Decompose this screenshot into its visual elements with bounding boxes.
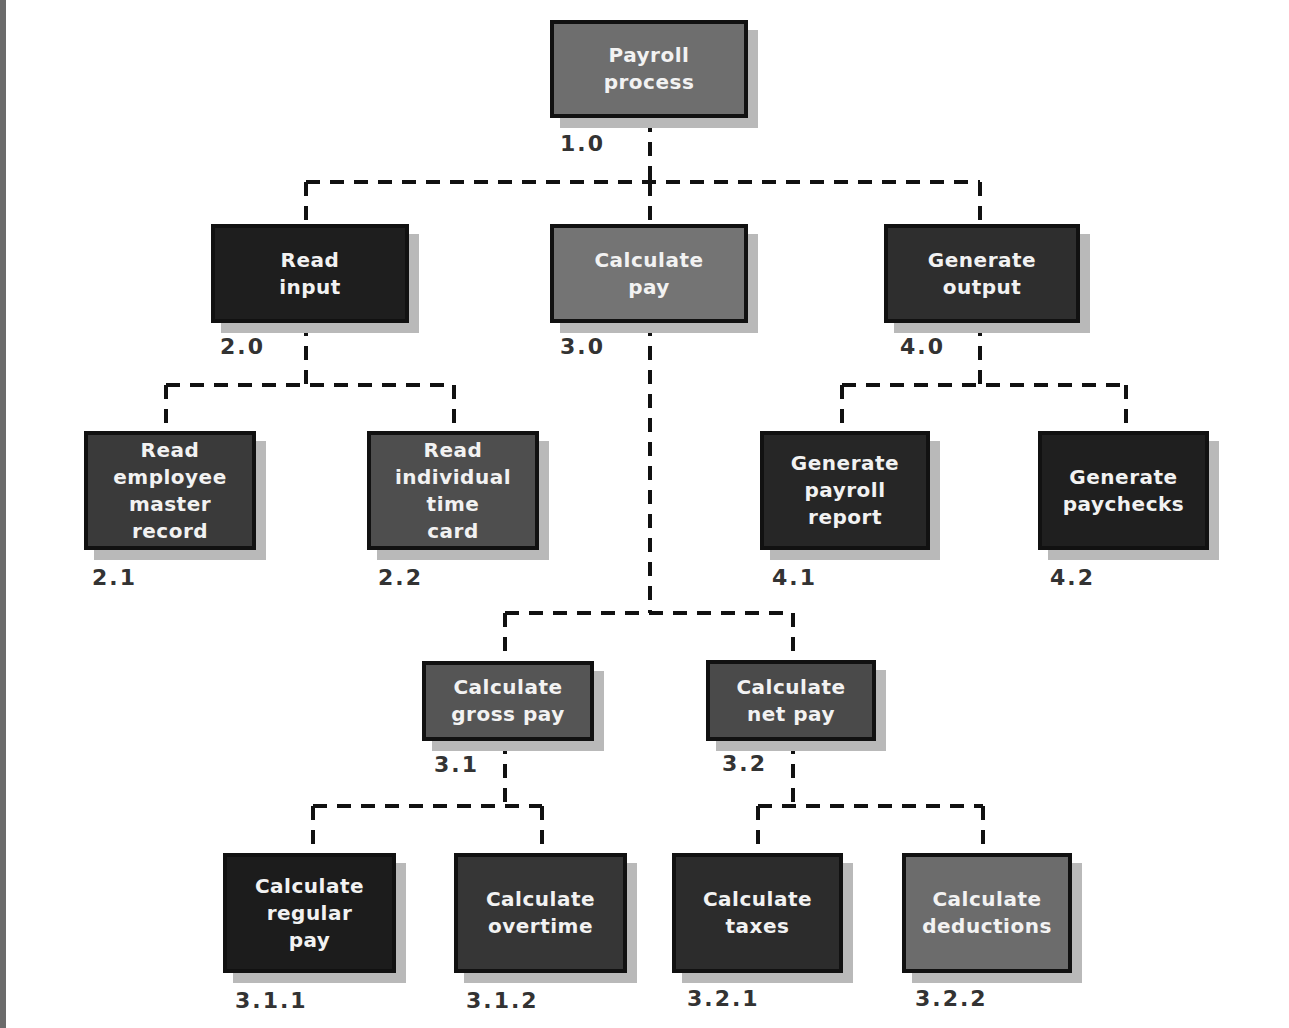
- node-calculate-taxes: Calculate taxes: [672, 853, 843, 973]
- node-number-3-2: 3.2: [722, 751, 767, 776]
- node-payroll-process: Payroll process: [550, 20, 748, 118]
- node-read-employee-master-record: Read employee master record: [84, 431, 256, 550]
- node-generate-paychecks: Generate paychecks: [1038, 431, 1209, 550]
- node-number-3-2-2: 3.2.2: [915, 986, 988, 1011]
- node-read-input: Read input: [211, 224, 409, 323]
- node-number-3-1: 3.1: [434, 752, 479, 777]
- node-number-2-2: 2.2: [378, 565, 423, 590]
- node-generate-payroll-report: Generate payroll report: [760, 431, 930, 550]
- node-calculate-deductions: Calculate deductions: [902, 853, 1072, 973]
- node-calculate-overtime: Calculate overtime: [454, 853, 627, 973]
- node-number-4-0: 4.0: [900, 334, 945, 359]
- node-number-3-1-2: 3.1.2: [466, 988, 539, 1013]
- node-generate-output: Generate output: [884, 224, 1080, 323]
- node-calculate-regular-pay: Calculate regular pay: [223, 853, 396, 973]
- node-read-individual-time-card: Read individual time card: [367, 431, 539, 550]
- node-number-3-1-1: 3.1.1: [235, 988, 308, 1013]
- node-number-4-1: 4.1: [772, 565, 817, 590]
- node-number-4-2: 4.2: [1050, 565, 1095, 590]
- node-number-3-2-1: 3.2.1: [687, 986, 760, 1011]
- node-calculate-net-pay: Calculate net pay: [706, 660, 876, 741]
- node-calculate-pay: Calculate pay: [550, 224, 748, 323]
- node-calculate-gross-pay: Calculate gross pay: [422, 661, 594, 741]
- node-number-2-1: 2.1: [92, 565, 137, 590]
- node-number-3-0: 3.0: [560, 334, 605, 359]
- node-number-1-0: 1.0: [560, 131, 605, 156]
- node-number-2-0: 2.0: [220, 334, 265, 359]
